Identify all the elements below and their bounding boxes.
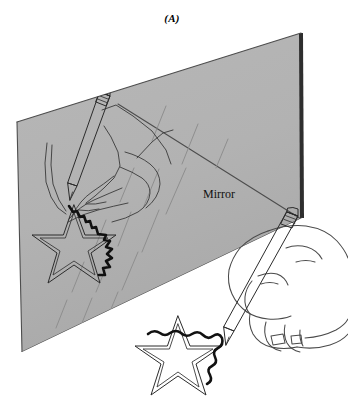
mirror-tracing-illustration: Mirror (0, 0, 348, 408)
mirror-label: Mirror (203, 187, 235, 201)
figure-root: (A) (0, 0, 348, 408)
